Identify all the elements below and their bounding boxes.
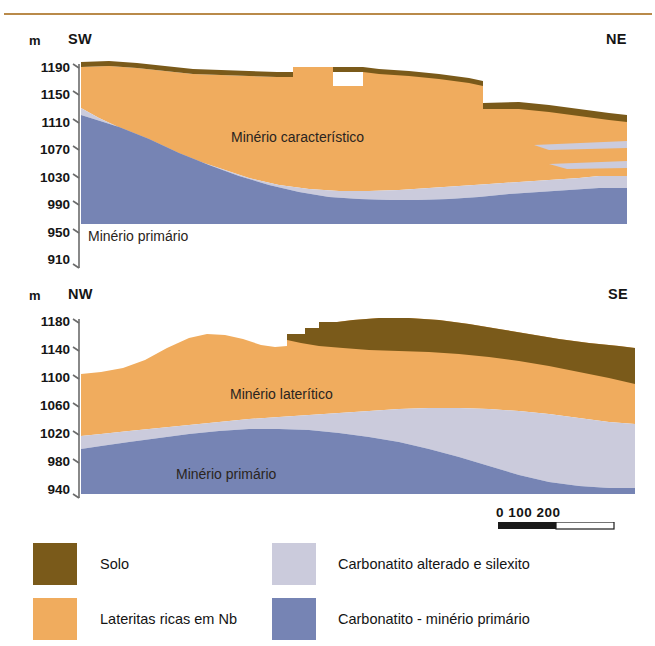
section2-ytick-1060: 1060 bbox=[0, 398, 70, 413]
section2-left-direction-label: NW bbox=[68, 286, 93, 302]
section1-ytick-1190: 1190 bbox=[0, 60, 70, 75]
section2-unit-label: m bbox=[29, 288, 41, 303]
legend-swatch-carbonatito-alterado bbox=[272, 543, 316, 585]
section1-annotation-laterite: Minério característico bbox=[231, 129, 364, 145]
legend-swatch-lateritas bbox=[33, 598, 77, 640]
section2-ytick-1180: 1180 bbox=[0, 314, 70, 329]
section1-ytick-1150: 1150 bbox=[0, 87, 70, 102]
section1-ytick-910: 910 bbox=[0, 252, 70, 267]
legend-swatch-solo bbox=[33, 543, 77, 585]
legend-label-solo: Solo bbox=[100, 557, 129, 572]
section2-ytick-1020: 1020 bbox=[0, 426, 70, 441]
legend-label-carbonatito-primario: Carbonatito - minério primário bbox=[338, 612, 530, 627]
legend-label-lateritas: Lateritas ricas em Nb bbox=[100, 612, 237, 627]
section2-ytick-1100: 1100 bbox=[0, 370, 70, 385]
scale-bar-graphic bbox=[498, 522, 622, 532]
figure-root: m SW NE 1190 1150 1110 1070 1030 990 950… bbox=[0, 0, 655, 646]
section1-ytick-1030: 1030 bbox=[0, 170, 70, 185]
section2-ytick-940: 940 bbox=[0, 482, 70, 497]
top-divider-rule bbox=[4, 13, 652, 15]
section1-right-direction-label: NE bbox=[606, 31, 627, 47]
section1-unit-label: m bbox=[29, 33, 41, 48]
legend-label-carbonatito-alterado: Carbonatito alterado e silexito bbox=[338, 557, 530, 572]
legend: Solo Lateritas ricas em Nb Carbonatito a… bbox=[0, 535, 655, 646]
section1-ytick-1110: 1110 bbox=[0, 115, 70, 130]
legend-swatch-carbonatito-primario bbox=[272, 598, 316, 640]
section2-right-direction-label: SE bbox=[608, 286, 628, 302]
section1-ytick-1070: 1070 bbox=[0, 142, 70, 157]
section2-annotation-primary: Minério primário bbox=[176, 466, 276, 482]
scale-bar-labels: 0 100 200 bbox=[496, 505, 561, 520]
section2-ytick-980: 980 bbox=[0, 454, 70, 469]
section1-left-direction-label: SW bbox=[68, 31, 92, 47]
section2-geology bbox=[79, 312, 639, 508]
section1-ytick-950: 950 bbox=[0, 225, 70, 240]
section1-annotation-primary: Minério primário bbox=[88, 228, 188, 244]
section2-annotation-laterite: Minério laterítico bbox=[230, 386, 333, 402]
scale-bar: 0 100 200 bbox=[496, 505, 626, 531]
section2-ytick-1140: 1140 bbox=[0, 342, 70, 357]
section1-ytick-990: 990 bbox=[0, 197, 70, 212]
